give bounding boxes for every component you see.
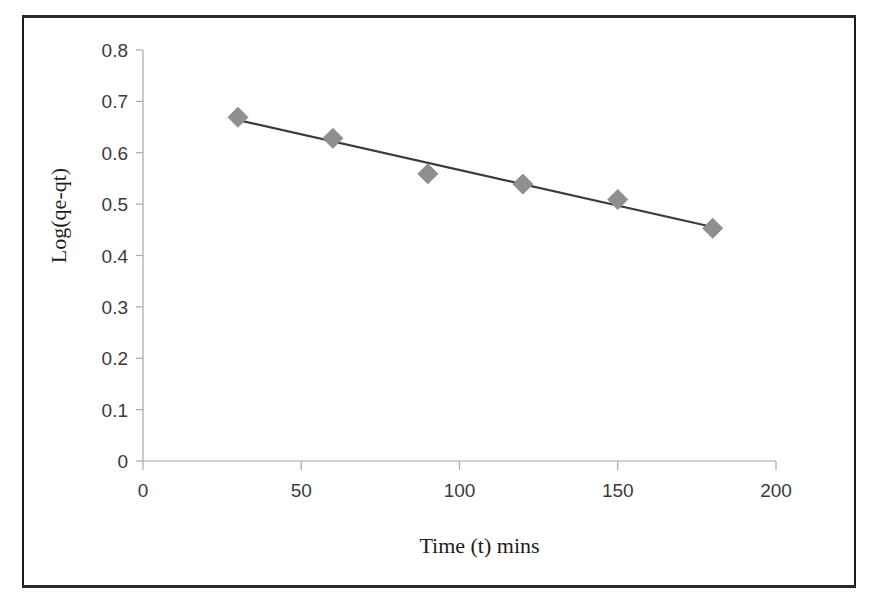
data-point-marker bbox=[323, 128, 343, 148]
x-axis-tick-labels: 050100150200 bbox=[138, 480, 792, 501]
y-tick-label: 0.7 bbox=[102, 91, 128, 112]
y-tick-label: 0.1 bbox=[102, 400, 128, 421]
y-tick-label: 0.6 bbox=[102, 143, 128, 164]
chart-svg: 00.10.20.30.40.50.60.70.8 050100150200 T… bbox=[24, 17, 858, 586]
x-tick-label: 200 bbox=[760, 480, 792, 501]
x-tick-label: 50 bbox=[291, 480, 312, 501]
x-axis-ticks bbox=[143, 461, 776, 470]
y-tick-label: 0.8 bbox=[102, 40, 128, 61]
x-tick-label: 0 bbox=[138, 480, 149, 501]
x-tick-label: 100 bbox=[444, 480, 476, 501]
data-point-marker bbox=[228, 107, 248, 127]
y-axis-title: Log(qe-qt) bbox=[46, 168, 71, 263]
data-point-marker bbox=[513, 174, 533, 194]
y-tick-label: 0.4 bbox=[102, 246, 129, 267]
data-point-marker bbox=[703, 218, 723, 238]
y-tick-label: 0 bbox=[117, 451, 128, 472]
y-axis-ticks bbox=[136, 50, 143, 461]
figure-frame: 00.10.20.30.40.50.60.70.8 050100150200 T… bbox=[22, 15, 856, 588]
y-tick-label: 0.3 bbox=[102, 297, 128, 318]
data-point-marker bbox=[418, 164, 438, 184]
chart-plot-area: 00.10.20.30.40.50.60.70.8 050100150200 T… bbox=[24, 17, 854, 586]
trend-line bbox=[238, 120, 713, 227]
y-axis-tick-labels: 00.10.20.30.40.50.60.70.8 bbox=[102, 40, 129, 472]
y-tick-label: 0.5 bbox=[102, 194, 128, 215]
x-axis-title: Time (t) mins bbox=[419, 533, 539, 558]
y-tick-label: 0.2 bbox=[102, 348, 128, 369]
x-tick-label: 150 bbox=[602, 480, 634, 501]
